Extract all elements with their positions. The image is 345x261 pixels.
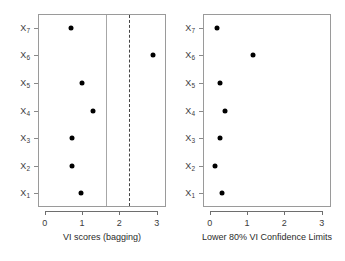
y-tick-label: X3 xyxy=(173,133,195,143)
x-tick-label: 2 xyxy=(282,218,287,228)
data-point xyxy=(212,163,217,168)
data-point xyxy=(218,80,223,85)
y-tick-mark xyxy=(34,193,38,194)
data-point xyxy=(250,53,255,58)
y-tick-mark xyxy=(34,83,38,84)
data-point xyxy=(69,163,74,168)
x-tick-label: 1 xyxy=(80,218,85,228)
data-point xyxy=(215,25,220,30)
x-tick-label: 1 xyxy=(245,218,250,228)
y-tick-mark xyxy=(34,166,38,167)
y-tick-mark xyxy=(199,28,203,29)
data-point xyxy=(150,53,155,58)
x-tick-label: 0 xyxy=(42,218,47,228)
y-tick-label: X1 xyxy=(8,188,30,198)
y-tick-label: X7 xyxy=(8,23,30,33)
y-tick-mark xyxy=(199,111,203,112)
x-tick-mark xyxy=(322,211,323,215)
data-point xyxy=(223,108,228,113)
chart-panel-vi-scores: X1X2X3X4X5X6X70123VI scores (bagging) xyxy=(0,0,172,261)
y-tick-label: X1 xyxy=(173,188,195,198)
data-point xyxy=(68,25,73,30)
data-point xyxy=(91,108,96,113)
y-tick-mark xyxy=(199,193,203,194)
y-tick-label: X2 xyxy=(8,161,30,171)
x-axis-title: VI scores (bagging) xyxy=(63,232,141,242)
y-tick-mark xyxy=(199,166,203,167)
plot-frame xyxy=(38,14,166,207)
x-tick-label: 3 xyxy=(154,218,159,228)
y-tick-mark xyxy=(34,111,38,112)
y-tick-label: X6 xyxy=(173,50,195,60)
x-tick-mark xyxy=(247,211,248,215)
chart-panel-confidence-limits: X1X2X3X4X5X6X70123Lower 80% VI Confidenc… xyxy=(172,0,344,261)
y-tick-mark xyxy=(199,55,203,56)
figure-root: X1X2X3X4X5X6X70123VI scores (bagging)X1X… xyxy=(0,0,345,261)
data-point xyxy=(80,80,85,85)
reference-line-dashed xyxy=(129,15,130,206)
x-tick-mark xyxy=(82,211,83,215)
y-tick-label: X7 xyxy=(173,23,195,33)
x-tick-mark xyxy=(119,211,120,215)
y-tick-label: X4 xyxy=(173,106,195,116)
x-axis-line xyxy=(210,211,322,212)
y-tick-label: X3 xyxy=(8,133,30,143)
x-axis-line xyxy=(45,211,157,212)
y-tick-label: X6 xyxy=(8,50,30,60)
x-tick-mark xyxy=(284,211,285,215)
y-tick-label: X2 xyxy=(173,161,195,171)
y-tick-mark xyxy=(34,138,38,139)
y-tick-label: X4 xyxy=(8,106,30,116)
y-tick-label: X5 xyxy=(8,78,30,88)
x-tick-mark xyxy=(45,211,46,215)
x-axis-title: Lower 80% VI Confidence Limits xyxy=(202,232,332,242)
reference-line-solid xyxy=(106,15,107,206)
x-tick-mark xyxy=(210,211,211,215)
x-tick-mark xyxy=(157,211,158,215)
y-tick-mark xyxy=(34,28,38,29)
y-tick-mark xyxy=(199,83,203,84)
x-tick-label: 3 xyxy=(319,218,324,228)
data-point xyxy=(69,136,74,141)
data-point xyxy=(78,191,83,196)
x-tick-label: 2 xyxy=(117,218,122,228)
x-tick-label: 0 xyxy=(207,218,212,228)
data-point xyxy=(218,136,223,141)
y-tick-mark xyxy=(34,55,38,56)
y-tick-label: X5 xyxy=(173,78,195,88)
y-tick-mark xyxy=(199,138,203,139)
data-point xyxy=(220,191,225,196)
